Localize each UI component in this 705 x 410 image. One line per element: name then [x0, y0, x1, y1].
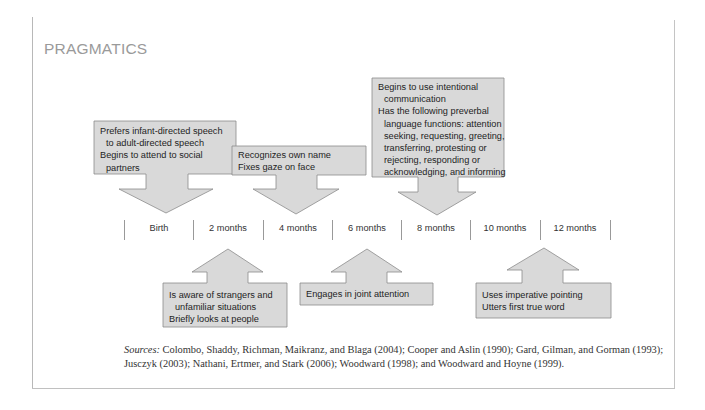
- sources-label: Sources:: [124, 344, 160, 355]
- milestone-line: Is aware of strangers and: [169, 289, 273, 301]
- milestone-line: rejecting, responding or: [378, 154, 506, 166]
- timeline-label-12-months: 12 months: [540, 223, 610, 233]
- milestone-line: seeking, requesting, greeting,: [378, 130, 506, 142]
- milestone-line: transferring, protesting or: [378, 142, 506, 154]
- milestone-line: Recognizes own name: [238, 149, 331, 161]
- milestone-line: unfamiliar situations: [169, 301, 273, 313]
- milestone-line: Prefers infant-directed speech: [100, 125, 223, 137]
- timeline-label-2-months: 2 months: [193, 223, 263, 233]
- milestone-line: Utters first true word: [482, 301, 583, 313]
- milestone-box-10-months: Uses imperative pointing Utters first tr…: [482, 289, 583, 313]
- milestone-line: Fixes gaze on face: [238, 161, 331, 173]
- milestone-box-4-months: Recognizes own name Fixes gaze on face: [238, 149, 331, 173]
- milestone-line: communication: [378, 93, 506, 105]
- milestone-line: acknowledging, and informing: [378, 166, 506, 178]
- timeline-label-4-months: 4 months: [263, 223, 333, 233]
- milestone-box-6-months: Engages in joint attention: [306, 288, 409, 300]
- milestone-line: Engages in joint attention: [306, 288, 409, 300]
- milestone-line: Begins to attend to social: [100, 149, 223, 161]
- timeline-separator: [610, 220, 611, 240]
- milestone-box-birth: Prefers infant-directed speech to adult-…: [100, 125, 223, 174]
- timeline-label-10-months: 10 months: [470, 223, 540, 233]
- milestone-line: Begins to use intentional: [378, 81, 506, 93]
- sources-citation: Sources: Colombo, Shaddy, Richman, Maikr…: [124, 343, 664, 371]
- milestone-line: Has the following preverbal: [378, 105, 506, 117]
- milestone-line: partners: [100, 162, 223, 174]
- milestone-line: Briefly looks at people: [169, 313, 273, 325]
- timeline-label-birth: Birth: [124, 223, 194, 233]
- milestone-line: language functions: attention: [378, 118, 506, 130]
- milestone-line: to adult-directed speech: [100, 137, 223, 149]
- milestone-line: Uses imperative pointing: [482, 289, 583, 301]
- timeline-label-6-months: 6 months: [332, 223, 402, 233]
- sources-text: Colombo, Shaddy, Richman, Maikranz, and …: [124, 344, 663, 369]
- timeline-label-8-months: 8 months: [401, 223, 471, 233]
- milestone-box-2-months: Is aware of strangers and unfamiliar sit…: [169, 289, 273, 326]
- milestone-box-8-months: Begins to use intentional communication …: [378, 81, 506, 179]
